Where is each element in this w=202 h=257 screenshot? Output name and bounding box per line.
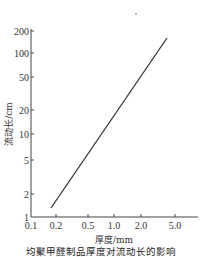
y-tick-label: 10: [19, 129, 29, 140]
x-tick-label: 0.5: [82, 220, 95, 231]
x-tick-label: 2.0: [135, 220, 148, 231]
x-tick-label: 0.1: [25, 220, 38, 231]
y-tick-label: 20: [19, 105, 29, 116]
chart-caption: 均聚甲醛制品厚度对流动长的影响: [26, 246, 176, 257]
x-tick-label: 0.2: [50, 220, 63, 231]
y-tick-label: 5: [24, 155, 29, 166]
data-series: [51, 38, 167, 208]
x-axis-label: 厚度/mm: [95, 234, 134, 245]
x-axis: 0.10.20.51.02.05.0: [25, 214, 198, 231]
x-tick-label: 1.0: [108, 220, 121, 231]
y-tick-label: 2: [24, 189, 29, 200]
stray-dot: [135, 13, 137, 15]
y-axis: 125102050100200: [14, 26, 34, 223]
x-tick-label: 5.0: [169, 220, 182, 231]
chart: 125102050100200 0.10.20.51.02.05.0 流动长/c…: [0, 0, 202, 257]
series-line: [51, 38, 167, 208]
y-axis-label: 流动长/cm: [3, 102, 14, 146]
y-tick-label: 50: [19, 72, 29, 83]
y-tick-label: 200: [14, 26, 29, 37]
y-tick-label: 100: [14, 48, 29, 59]
